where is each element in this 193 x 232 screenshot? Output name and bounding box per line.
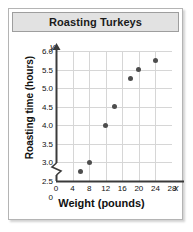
x-axis-tick-labels: 0481216202428	[56, 184, 186, 196]
chart-figure-frame: Roasting Turkeys y x 2.53.03.54.04.55.05…	[8, 8, 183, 220]
x-tick-label: 24	[151, 184, 160, 193]
data-point	[153, 58, 158, 63]
page-title: Roasting Turkeys	[49, 16, 142, 28]
y-tick-label: 3.0	[42, 158, 53, 167]
data-point	[78, 169, 83, 174]
y-tick-label: 3.5	[42, 139, 53, 148]
y-tick-label: 5.0	[42, 84, 53, 93]
data-point	[128, 76, 133, 81]
y-tick-label: 4.0	[42, 121, 53, 130]
x-tick-label: 12	[101, 184, 110, 193]
y-tick-label: 2.5	[42, 177, 53, 186]
data-point	[87, 160, 92, 165]
scatter-points-layer	[56, 51, 172, 181]
y-tick-label: 5.5	[42, 65, 53, 74]
y-tick-label: 6.0	[42, 47, 53, 56]
data-point	[136, 67, 141, 72]
y-tick-label: 4.5	[42, 102, 53, 111]
x-tick-label: 8	[87, 184, 91, 193]
x-tick-label: 16	[118, 184, 127, 193]
chart-title-bar: Roasting Turkeys	[12, 12, 179, 32]
x-tick-label: 20	[134, 184, 143, 193]
x-axis-title: Weight (pounds)	[29, 197, 174, 209]
data-point	[112, 104, 117, 109]
plot-area	[56, 51, 172, 181]
x-tick-label: 0	[54, 184, 58, 193]
data-point	[103, 123, 108, 128]
x-tick-label: 28	[168, 184, 177, 193]
x-tick-label: 4	[70, 184, 74, 193]
y-axis-title: Roasting time (hours)	[24, 49, 35, 167]
